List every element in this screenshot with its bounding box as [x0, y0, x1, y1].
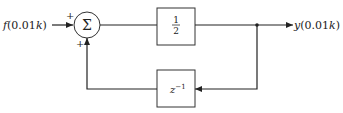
input-label: f(0.01k): [2, 19, 47, 32]
plus-sign-bottom: +: [76, 38, 84, 49]
output-label: y(0.01k): [293, 19, 340, 32]
plus-sign-top: +: [66, 10, 74, 21]
block-diagram: f(0.01k) Σ + + 1 2 y(0.01k) z−1: [0, 0, 343, 113]
sigma-symbol: Σ: [82, 17, 92, 33]
delay-block: z−1: [157, 70, 195, 107]
summing-junction: Σ: [74, 12, 100, 38]
feedback-line-left: [87, 38, 157, 89]
gain-block: 1 2: [157, 8, 195, 45]
gain-denominator: 2: [173, 26, 179, 36]
feedback-line-right: [195, 25, 257, 89]
gain-numerator: 1: [173, 15, 179, 25]
